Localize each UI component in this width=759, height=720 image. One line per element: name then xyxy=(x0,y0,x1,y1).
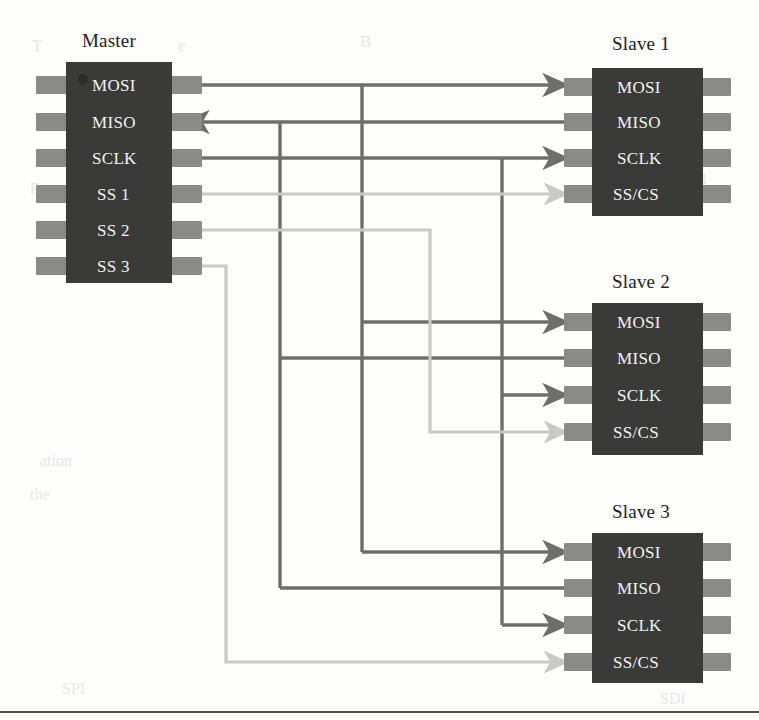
pin-label-slave1-mosi: MOSI xyxy=(617,78,661,98)
pin-label-master-ss1: SS 1 xyxy=(97,185,130,205)
chip-title-slave-2: Slave 2 xyxy=(612,271,670,293)
slave2-pins-left xyxy=(564,313,596,441)
chip-title-slave-3: Slave 3 xyxy=(612,501,670,523)
pin-label-slave1-miso: MISO xyxy=(617,113,661,133)
pin-label-master-ss3: SS 3 xyxy=(97,257,130,277)
spi-diagram-canvas: TeB1RUARTationtheSPISDI xyxy=(0,0,759,720)
pin-label-slave2-miso: MISO xyxy=(617,349,661,369)
master-pin1-marker xyxy=(78,74,88,84)
pin-label-slave2-sscs: SS/CS xyxy=(613,423,659,443)
slave1-pins-right xyxy=(699,78,731,203)
pin-label-slave3-mosi: MOSI xyxy=(617,543,661,563)
pin-label-slave1-sclk: SCLK xyxy=(617,149,662,169)
pin-label-master-ss2: SS 2 xyxy=(97,221,130,241)
pin-label-master-miso: MISO xyxy=(92,113,136,133)
pin-label-slave3-sclk: SCLK xyxy=(617,616,662,636)
pin-label-slave2-sclk: SCLK xyxy=(617,386,662,406)
pin-label-slave3-miso: MISO xyxy=(617,579,661,599)
chip-title-master: Master xyxy=(82,30,136,52)
slave3-pins-right xyxy=(699,543,731,671)
pin-label-master-mosi: MOSI xyxy=(92,76,136,96)
master-pins-right xyxy=(168,76,202,275)
slave2-pins-right xyxy=(699,313,731,441)
pin-label-slave1-sscs: SS/CS xyxy=(613,185,659,205)
slave3-pins-left xyxy=(564,543,596,671)
slave1-pins-left xyxy=(564,78,596,203)
pin-label-master-sclk: SCLK xyxy=(92,149,137,169)
master-pins-left xyxy=(36,76,70,275)
chip-title-slave-1: Slave 1 xyxy=(612,33,670,55)
pin-label-slave2-mosi: MOSI xyxy=(617,313,661,333)
pin-label-slave3-sscs: SS/CS xyxy=(613,653,659,673)
